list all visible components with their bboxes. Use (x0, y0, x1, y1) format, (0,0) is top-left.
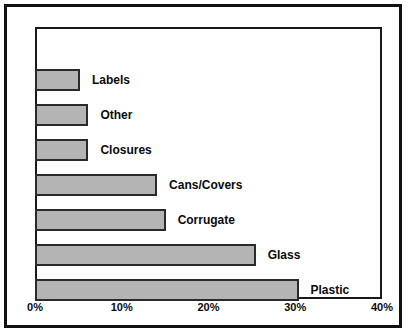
bar-label-cans-covers: Cans/Covers (169, 174, 242, 196)
x-tick-label-0pct: 0% (27, 301, 43, 313)
x-axis-tick-labels: 0%10%20%30%40% (35, 301, 382, 321)
bar-other[interactable] (35, 104, 88, 126)
bar-label-corrugate: Corrugate (178, 209, 235, 231)
x-tick-label-30pct: 30% (284, 301, 306, 313)
x-tick-label-40pct: 40% (371, 301, 393, 313)
bar-label-closures: Closures (100, 139, 151, 161)
plot-area: LabelsOtherClosuresCans/CoversCorrugateG… (35, 27, 382, 299)
x-tick-label-20pct: 20% (197, 301, 219, 313)
bar-glass[interactable] (35, 244, 256, 266)
x-tick-label-10pct: 10% (111, 301, 133, 313)
figure-frame: LabelsOtherClosuresCans/CoversCorrugateG… (4, 4, 402, 328)
bar-corrugate[interactable] (35, 209, 166, 231)
plot-inner-canvas: LabelsOtherClosuresCans/CoversCorrugateG… (37, 29, 380, 297)
bar-labels[interactable] (35, 69, 80, 91)
bar-label-labels: Labels (92, 69, 130, 91)
bar-cans-covers[interactable] (35, 174, 157, 196)
chart-screenshot: LabelsOtherClosuresCans/CoversCorrugateG… (0, 0, 409, 334)
bar-label-plastic: Plastic (311, 279, 350, 301)
bar-label-other: Other (100, 104, 132, 126)
bar-closures[interactable] (35, 139, 88, 161)
bar-label-glass: Glass (268, 244, 301, 266)
bar-plastic[interactable] (35, 279, 299, 301)
